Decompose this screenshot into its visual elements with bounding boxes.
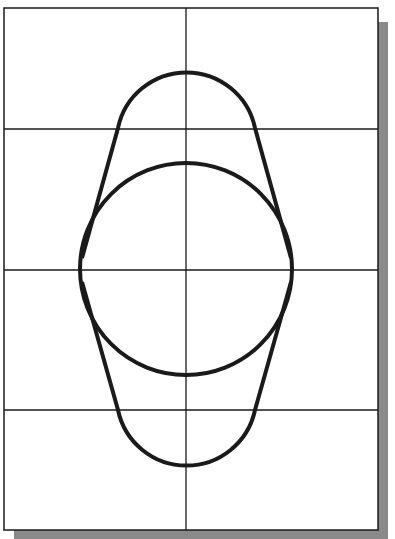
drawing-canvas [0, 0, 395, 539]
cad-sketch [0, 0, 395, 539]
drawing-frame [4, 8, 378, 530]
